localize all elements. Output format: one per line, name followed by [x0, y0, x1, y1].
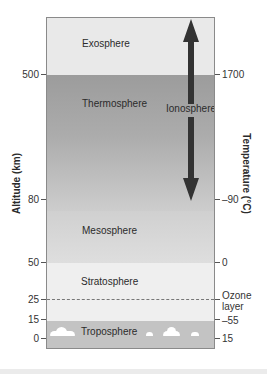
- altitude-tick-label: 500: [22, 69, 39, 80]
- altitude-tick: [41, 319, 46, 320]
- altitude-axis-title: Altitude (km): [11, 153, 22, 214]
- cloud-icon: [191, 332, 199, 336]
- altitude-tick: [41, 199, 46, 200]
- cloud-icon: [56, 327, 67, 333]
- atmosphere-layers-box: Exosphere Thermosphere Mesosphere Strato…: [46, 17, 215, 349]
- mesosphere-label: Mesosphere: [82, 225, 137, 236]
- ionosphere-label: Ionosphere: [166, 103, 215, 114]
- troposphere-label: Troposphere: [81, 326, 137, 337]
- altitude-tick-label: 80: [28, 194, 39, 205]
- ozone-tick: [215, 299, 220, 300]
- stratosphere-layer: Stratosphere: [47, 263, 214, 321]
- temperature-tick: [215, 74, 220, 75]
- temperature-tick: [215, 262, 220, 263]
- temperature-axis-title: Temperature (°C): [241, 133, 252, 214]
- ozone-layer-label: Ozone layer: [222, 290, 258, 312]
- temperature-tick: [215, 319, 220, 320]
- altitude-tick-label: 0: [33, 333, 39, 344]
- stratosphere-label: Stratosphere: [81, 276, 138, 287]
- temperature-tick: [215, 199, 220, 200]
- temperature-tick-label: –90: [222, 194, 239, 205]
- troposphere-layer: Troposphere: [47, 321, 214, 349]
- temperature-tick-label: 0: [222, 257, 228, 268]
- thermosphere-label: Thermosphere: [82, 98, 147, 109]
- altitude-tick-label: 50: [28, 257, 39, 268]
- ozone-layer-line: [47, 299, 214, 300]
- exosphere-label: Exosphere: [82, 38, 130, 49]
- altitude-tick-label: 25: [28, 294, 39, 305]
- cloud-icon: [167, 327, 176, 333]
- temperature-tick: [215, 338, 220, 339]
- altitude-tick: [41, 338, 46, 339]
- temperature-tick-label: –55: [222, 315, 239, 326]
- bottom-divider: [0, 369, 267, 374]
- altitude-tick-label: 15: [28, 314, 39, 325]
- altitude-tick: [41, 262, 46, 263]
- temperature-tick-label: 15: [222, 333, 233, 344]
- temperature-tick-label: 1700: [222, 69, 244, 80]
- cloud-icon: [146, 332, 153, 336]
- altitude-tick: [41, 74, 46, 75]
- mesosphere-layer: Mesosphere: [47, 211, 214, 263]
- altitude-tick: [41, 299, 46, 300]
